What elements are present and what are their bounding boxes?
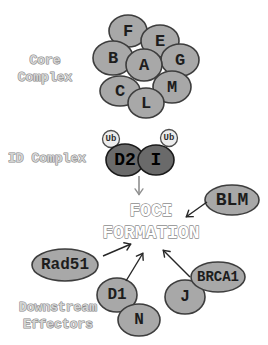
downstream-effectors-label-line-2: Effectors: [23, 317, 93, 332]
node-fancg-label: G: [175, 51, 185, 70]
arrow-blm-to-foci: [186, 202, 207, 217]
node-ubiquitin-1-label: Ub: [106, 134, 117, 144]
node-blm: BLM: [205, 185, 259, 215]
core-complex-label-line-1: Core: [29, 53, 60, 68]
arrow-d1-to-foci: [126, 253, 143, 281]
node-fancf-label: F: [123, 22, 133, 41]
core-complex-label: CoreComplex: [18, 53, 73, 85]
node-fanca-label: A: [139, 56, 150, 75]
node-ubiquitin-2-label: Ub: [164, 133, 175, 143]
node-fanca: A: [126, 49, 162, 81]
node-fancn: N: [118, 304, 160, 336]
node-fancn-label: N: [134, 311, 144, 329]
foci-formation-label-line-2: FORMATION: [102, 223, 199, 243]
node-fancd2-label: D2: [114, 150, 136, 170]
node-fanci: I: [138, 145, 174, 175]
node-fancb-label: B: [108, 49, 118, 68]
downstream-effectors-label: DownstreamEffectors: [19, 300, 97, 332]
node-brca1: BRCA1: [191, 262, 245, 292]
id-complex-label-line-1: ID Complex: [8, 151, 86, 166]
node-brca1-label: BRCA1: [197, 269, 239, 285]
diagram-canvas: FEBGACMLUbUbD2IBLMRad51D1NJBRCA1 CoreCom…: [0, 0, 268, 345]
arrow-j-to-foci: [163, 250, 190, 277]
node-fancj-label: J: [180, 288, 190, 306]
node-fancc-label: C: [115, 82, 125, 101]
node-fancl-label: L: [141, 94, 151, 113]
foci-formation-label: FOCIFORMATION: [102, 201, 199, 243]
node-fancm-label: M: [167, 78, 177, 97]
nodes-layer: FEBGACMLUbUbD2IBLMRad51D1NJBRCA1: [32, 15, 259, 336]
node-rad51: Rad51: [32, 249, 98, 281]
node-fancd1-label: D1: [107, 286, 126, 304]
node-ubiquitin-2: Ub: [161, 130, 178, 147]
node-fancl: L: [128, 88, 164, 118]
id-complex-label: ID Complex: [8, 151, 86, 166]
node-fance-label: E: [155, 32, 165, 51]
foci-formation-label-line-1: FOCI: [129, 201, 172, 221]
downstream-effectors-label-line-1: Downstream: [19, 300, 97, 315]
node-rad51-label: Rad51: [41, 256, 89, 274]
core-complex-label-line-2: Complex: [18, 70, 73, 85]
pathway-diagram: FEBGACMLUbUbD2IBLMRad51D1NJBRCA1 CoreCom…: [0, 0, 268, 345]
arrow-rad51-to-foci: [103, 244, 131, 256]
node-fanci-label: I: [151, 150, 162, 170]
node-blm-label: BLM: [216, 190, 248, 210]
